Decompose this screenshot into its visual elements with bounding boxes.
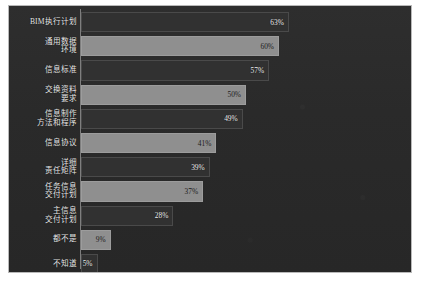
- bar-track: 57%: [81, 58, 411, 82]
- bar-value-label: 63%: [270, 18, 288, 27]
- category-label: 详细 责任矩阵: [13, 159, 77, 176]
- bar-track: 50%: [81, 83, 411, 107]
- bar: 50%: [81, 85, 246, 105]
- bar-value-label: 39%: [191, 163, 209, 172]
- category-label: 交换资料 要求: [13, 86, 77, 103]
- category-label: 任务信息 交付计划: [13, 183, 77, 200]
- bar: 41%: [81, 133, 216, 153]
- bar-value-label: 49%: [224, 114, 242, 123]
- bar-track: 37%: [81, 179, 411, 203]
- bar-track: 63%: [81, 10, 411, 34]
- bar-row: 通用数据 环境60%: [9, 34, 411, 58]
- category-label: 都不是: [13, 235, 77, 244]
- bar-row: 信息协议41%: [9, 131, 411, 155]
- screenshot-root: BIM执行计划63%通用数据 环境60%信息标准57%交换资料 要求50%信息制…: [0, 0, 421, 283]
- category-label: BIM执行计划: [13, 18, 77, 27]
- bar-value-label: 37%: [185, 187, 203, 196]
- bar-row: 不知道5%: [9, 252, 411, 273]
- bar-row: BIM执行计划63%: [9, 10, 411, 34]
- bar-row: 都不是9%: [9, 228, 411, 252]
- category-label: 信息制作 方法和程序: [13, 110, 77, 127]
- bar-rows: BIM执行计划63%通用数据 环境60%信息标准57%交换资料 要求50%信息制…: [9, 10, 411, 273]
- bar-track: 39%: [81, 155, 411, 179]
- bar: 63%: [81, 12, 289, 32]
- bar-value-label: 50%: [227, 90, 245, 99]
- category-label: 信息协议: [13, 139, 77, 148]
- bar-row: 信息标准57%: [9, 58, 411, 82]
- bar: 49%: [81, 109, 243, 129]
- bar-row: 主信息 交付计划28%: [9, 204, 411, 228]
- bar-row: 详细 责任矩阵39%: [9, 155, 411, 179]
- category-label: 通用数据 环境: [13, 38, 77, 55]
- bar-chart: BIM执行计划63%通用数据 环境60%信息标准57%交换资料 要求50%信息制…: [9, 6, 411, 272]
- bar-value-label: 60%: [260, 42, 278, 51]
- bar-row: 任务信息 交付计划37%: [9, 179, 411, 203]
- bar: 5%: [81, 254, 98, 273]
- bar: 28%: [81, 206, 173, 226]
- bar-track: 49%: [81, 107, 411, 131]
- bar-track: 9%: [81, 228, 411, 252]
- bar: 39%: [81, 157, 210, 177]
- bar: 9%: [81, 230, 111, 250]
- bar-value-label: 41%: [198, 139, 216, 148]
- bar-value-label: 9%: [96, 235, 110, 244]
- category-label: 主信息 交付计划: [13, 207, 77, 224]
- bar: 60%: [81, 36, 279, 56]
- bar-value-label: 57%: [251, 66, 269, 75]
- slide-frame: BIM执行计划63%通用数据 环境60%信息标准57%交换资料 要求50%信息制…: [8, 5, 412, 273]
- bar-track: 60%: [81, 34, 411, 58]
- bar-row: 交换资料 要求50%: [9, 83, 411, 107]
- bar: 37%: [81, 181, 203, 201]
- category-label: 信息标准: [13, 66, 77, 75]
- category-label: 不知道: [13, 260, 77, 269]
- bar-track: 28%: [81, 204, 411, 228]
- bar-track: 41%: [81, 131, 411, 155]
- bar-row: 信息制作 方法和程序49%: [9, 107, 411, 131]
- bar-value-label: 5%: [83, 259, 97, 268]
- bar-value-label: 28%: [155, 211, 173, 220]
- bar-track: 5%: [81, 252, 411, 273]
- bar: 57%: [81, 60, 269, 80]
